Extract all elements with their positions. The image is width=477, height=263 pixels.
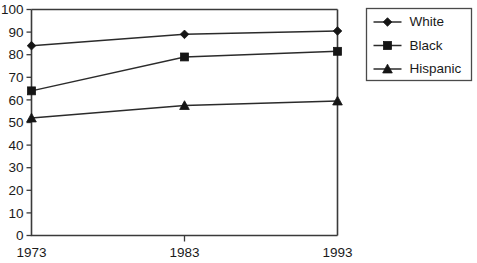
y-tick-label: 10 bbox=[8, 206, 23, 221]
data-point-marker bbox=[334, 47, 342, 55]
y-tick-label: 40 bbox=[8, 138, 23, 153]
y-tick-label: 80 bbox=[8, 47, 23, 62]
y-tick-label: 50 bbox=[8, 115, 23, 130]
data-point-marker bbox=[180, 30, 189, 39]
x-tick-label: 1993 bbox=[322, 245, 352, 260]
data-point-marker bbox=[27, 41, 36, 50]
y-tick-label: 0 bbox=[16, 228, 24, 243]
y-tick-label: 20 bbox=[8, 183, 23, 198]
axis-frame bbox=[32, 10, 338, 236]
data-point-marker bbox=[333, 27, 342, 36]
x-axis-tick-labels: 197319831993 bbox=[16, 245, 352, 260]
chart-legend: WhiteBlackHispanic bbox=[367, 9, 472, 81]
y-axis-tick-labels: 0102030405060708090100 bbox=[1, 2, 24, 243]
x-tick-label: 1983 bbox=[169, 245, 199, 260]
y-tick-label: 30 bbox=[8, 160, 23, 175]
x-tick-label: 1973 bbox=[16, 245, 46, 260]
series-hispanic bbox=[27, 96, 343, 122]
legend-label: Hispanic bbox=[410, 61, 462, 76]
series-black bbox=[28, 47, 342, 94]
y-tick-label: 70 bbox=[8, 70, 23, 85]
data-point-marker bbox=[28, 87, 36, 95]
data-series-layer bbox=[27, 27, 343, 122]
line-chart: 0102030405060708090100 197319831993 Whit… bbox=[0, 0, 477, 263]
legend-label: Black bbox=[410, 38, 443, 53]
legend-marker-square bbox=[384, 42, 392, 50]
series-white bbox=[27, 27, 342, 50]
legend-label: White bbox=[410, 14, 445, 29]
y-tick-label: 60 bbox=[8, 93, 23, 108]
plot-area bbox=[32, 10, 338, 236]
y-tick-label: 90 bbox=[8, 25, 23, 40]
chart-canvas: 0102030405060708090100 197319831993 Whit… bbox=[0, 0, 477, 263]
data-point-marker bbox=[181, 53, 189, 61]
y-tick-label: 100 bbox=[1, 2, 24, 17]
